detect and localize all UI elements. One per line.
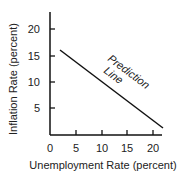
x-tick-label: 15 bbox=[121, 142, 133, 154]
x-tick-label: 0 bbox=[47, 142, 53, 154]
x-axis-label: Unemployment Rate (percent) bbox=[29, 159, 176, 171]
x-tick-label: 10 bbox=[96, 142, 108, 154]
x-tick-label: 5 bbox=[73, 142, 79, 154]
prediction-line-annotation: Prediction Line bbox=[99, 52, 153, 101]
y-tick-label: 5 bbox=[34, 102, 40, 114]
chart: 5 10 15 20 0 5 10 15 20 Unemployment Rat… bbox=[0, 0, 180, 176]
y-tick-label: 10 bbox=[28, 76, 40, 88]
y-tick-label: 20 bbox=[28, 23, 40, 35]
x-tick-label: 20 bbox=[147, 142, 159, 154]
y-axis-label: Inflation Rate (percent) bbox=[7, 23, 19, 135]
y-tick-label: 15 bbox=[28, 50, 40, 62]
